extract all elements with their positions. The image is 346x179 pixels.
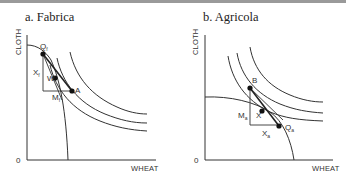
panel-b: CLOTH WHEAT 0 B Ma X Xa Qa — [191, 29, 340, 173]
panel-b-terms-of-trade-line — [250, 88, 279, 126]
panel-a-point-Qf — [40, 51, 45, 56]
panel-b-label-B: B — [252, 76, 257, 85]
panel-a-label-Qf: Qf — [40, 42, 48, 52]
panel-a-origin: 0 — [16, 156, 21, 165]
panel-b-ppf — [205, 97, 294, 160]
panel-b-label-Ma: Ma — [238, 111, 248, 121]
panel-a-indifference-1 — [50, 65, 147, 131]
panel-b-y-axis-label: CLOTH — [191, 29, 200, 55]
panel-a-y-axis-label: CLOTH — [14, 29, 23, 55]
panel-b-point-B — [247, 85, 252, 90]
panel-a-ppf — [27, 45, 68, 160]
panel-b-label-Xa: Xa — [262, 129, 270, 139]
panel-b-origin: 0 — [194, 156, 199, 165]
panel-a-point-A — [69, 88, 74, 93]
panel-a-label-Xf: Xf — [33, 68, 40, 78]
panel-a-indifference-3 — [70, 52, 147, 114]
panel-b-x-axis-label: WHEAT — [312, 164, 340, 173]
panel-a-label-A: A — [75, 86, 81, 95]
panel-a: CLOTH WHEAT 0 Qf Xf W A Mf — [14, 29, 159, 173]
panel-a-x-axis-label: WHEAT — [131, 164, 159, 173]
panel-b-label-X: X — [256, 111, 262, 120]
trade-diagrams: CLOTH WHEAT 0 Qf Xf W A Mf CLOTH WHEAT 0 — [0, 0, 346, 179]
panel-a-label-W: W — [47, 74, 55, 83]
panel-b-label-Qa: Qa — [285, 123, 294, 133]
panel-b-indifference-3 — [250, 47, 323, 102]
panel-b-point-Qa — [276, 123, 281, 128]
